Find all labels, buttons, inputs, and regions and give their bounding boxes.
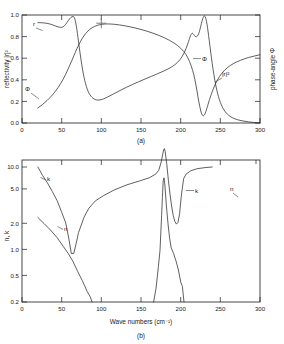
ytick-label: 0.4 (11, 76, 20, 83)
xtick-label: 200 (176, 126, 187, 133)
xtick-label: 100 (96, 305, 107, 312)
curve-label-n-right: n (230, 185, 234, 192)
curve-k (38, 149, 212, 254)
panel-b: 0.2 0.5 1.0 2.0 5.0 10.0 0 50 100 150 20… (3, 149, 266, 340)
curve-label-r: r (33, 20, 35, 27)
xtick-label: 100 (96, 126, 107, 133)
figure-svg: 0.0 0.2 0.4 0.6 0.8 1.0 0 50 100 150 200… (0, 0, 284, 344)
ytick-label: 5.0 (11, 185, 20, 192)
panel-b-x-axis-label: Wave numbers (cm⁻¹) (110, 318, 172, 326)
xtick-label: 0 (20, 126, 24, 133)
ytick-label: 1.0 (11, 11, 20, 18)
panel-b-y-axis-label: n, k (3, 230, 10, 241)
panel-a-y-axis-label: reflectivity |r|² (3, 50, 11, 88)
curve-label-phi-right: Φ (202, 55, 207, 62)
xtick-label: 250 (215, 126, 226, 133)
panel-a-y-ticks (22, 15, 27, 123)
panel-b-annotations: k n k n (41, 175, 239, 232)
panel-a-label: (a) (137, 137, 145, 145)
panel-b-x-ticks (22, 160, 260, 302)
curve-n-resonance (154, 178, 184, 302)
curve-label-k-left: k (47, 175, 51, 182)
xtick-label: 150 (136, 305, 147, 312)
xtick-label: 300 (255, 126, 266, 133)
curve-label-r2-right: |r|² (222, 70, 229, 77)
xtick-label: 250 (215, 305, 226, 312)
ytick-label: 2.0 (11, 220, 20, 227)
ytick-label: 0.2 (11, 98, 20, 105)
xtick-label: 300 (255, 305, 266, 312)
curve-label-n-left: n (64, 225, 68, 232)
ytick-label: 1.0 (11, 246, 20, 253)
panel-a-frame (22, 15, 260, 123)
xtick-label: 0 (20, 305, 24, 312)
ytick-label: 0.2 (11, 298, 20, 305)
leader-line (58, 227, 64, 230)
panel-b-label: (b) (137, 332, 145, 340)
leader-line (36, 28, 43, 31)
panel-a-x-ticks (22, 15, 260, 123)
ytick-label: 0.6 (11, 54, 20, 61)
leader-line (41, 178, 47, 181)
leader-line (31, 93, 39, 99)
leader-line (233, 193, 238, 197)
panel-b-y-ticks (22, 167, 27, 302)
ytick-label: 0.0 (11, 119, 20, 126)
panel-a-y-ticklabels: 0.0 0.2 0.4 0.6 0.8 1.0 (11, 11, 20, 126)
curve-label-phi-left: Φ (25, 85, 30, 92)
ytick-label: 0.8 (11, 33, 20, 40)
figure-container: 0.0 0.2 0.4 0.6 0.8 1.0 0 50 100 150 200… (0, 0, 284, 344)
panel-a: 0.0 0.2 0.4 0.6 0.8 1.0 0 50 100 150 200… (3, 11, 277, 145)
xtick-label: 200 (176, 305, 187, 312)
panel-a-y2-ticks (255, 15, 260, 123)
ytick-label: 10.0 (7, 163, 19, 170)
xtick-label: 150 (136, 126, 147, 133)
panel-a-x-ticklabels: 0 50 100 150 200 250 300 (20, 126, 265, 133)
xtick-label: 50 (58, 126, 65, 133)
panel-b-frame (22, 160, 260, 302)
panel-b-x-ticklabels: 0 50 100 150 200 250 300 (20, 305, 265, 312)
cross-marker (96, 18, 106, 28)
curve-label-k-right: k (195, 187, 199, 194)
panel-a-y2-axis-label: phase-angle Φ (269, 48, 277, 90)
ytick-label: 0.5 (11, 272, 20, 279)
xtick-label: 50 (58, 305, 65, 312)
